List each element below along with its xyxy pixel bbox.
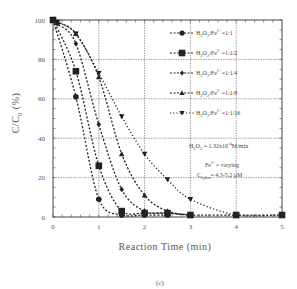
y-tick-label: 80 xyxy=(38,56,46,64)
chart: 012345020406080100 H2O2:Fe2+=1:1H2O2:Fe2… xyxy=(0,0,297,289)
legend-label: H2O2:Fe2+=1:1/8 xyxy=(196,88,237,98)
triangle-up-marker-icon xyxy=(142,193,148,198)
annotations: H2O2 = 1.32x10-4M/minFe2+= varyingC0,phe… xyxy=(189,141,248,181)
x-tick-label: 3 xyxy=(189,223,193,231)
svg-text:C/C0(%): C/C0(%) xyxy=(10,93,23,134)
circle-marker-icon xyxy=(179,30,184,35)
diamond-marker-icon xyxy=(180,70,184,75)
triangle-down-marker-icon xyxy=(165,177,171,182)
legend: H2O2:Fe2+=1:1H2O2:Fe2+=1:1/2H2O2:Fe2+=1:… xyxy=(170,28,240,118)
series-curve xyxy=(53,20,282,215)
annotation-h2o2: H2O2 = 1.32x10-4M/min xyxy=(189,141,248,151)
circle-marker-icon xyxy=(96,196,102,202)
legend-item-4: H2O2:Fe2+=1:1/8 xyxy=(170,88,237,98)
legend-label: H2O2:Fe2+=1:1/2 xyxy=(196,48,237,58)
annotation-fe: Fe2+= varying xyxy=(205,160,239,168)
y-axis-title: C/C0(%) xyxy=(10,93,23,134)
square-marker-icon xyxy=(73,68,80,75)
grid-lines xyxy=(53,20,282,217)
x-tick-label: 4 xyxy=(234,223,238,231)
y-axis-title-unit: (%) xyxy=(10,93,22,110)
legend-label: H2O2:Fe2+=1:1 xyxy=(196,28,233,38)
series-layer xyxy=(50,17,286,219)
triangle-down-marker-icon xyxy=(119,114,125,119)
y-axis-title-sub: 0 xyxy=(17,112,23,116)
plot-frame xyxy=(53,20,282,217)
y-tick-label: 60 xyxy=(38,95,46,103)
legend-item-2: H2O2:Fe2+=1:1/2 xyxy=(170,48,237,58)
legend-item-3: H2O2:Fe2+=1:1/4 xyxy=(170,68,237,78)
triangle-up-marker-icon xyxy=(179,90,184,95)
y-axis-title-main: C/C xyxy=(10,116,21,134)
series-5 xyxy=(50,18,285,218)
x-tick-label: 5 xyxy=(280,223,284,231)
x-tick-label: 0 xyxy=(51,223,55,231)
x-tick-label: 1 xyxy=(97,223,101,231)
square-marker-icon xyxy=(118,208,125,215)
y-tick-label: 20 xyxy=(38,174,46,182)
diamond-marker-icon xyxy=(74,41,78,47)
x-tick-label: 2 xyxy=(143,223,147,231)
diamond-marker-icon xyxy=(97,122,101,128)
legend-item-5: H2O2:Fe2+=1:1/16 xyxy=(170,108,240,118)
legend-label: H2O2:Fe2+=1:1/16 xyxy=(196,108,240,118)
circle-marker-icon xyxy=(73,94,79,100)
annotation-c0: C0,phen= 4.3-5.2 μM xyxy=(197,172,243,181)
triangle-down-marker-icon xyxy=(142,152,148,157)
square-marker-icon xyxy=(179,50,186,57)
y-tick-label: 40 xyxy=(38,135,46,143)
triangle-down-marker-icon xyxy=(188,197,194,202)
legend-item-1: H2O2:Fe2+=1:1 xyxy=(170,28,233,38)
y-tick-label: 0 xyxy=(42,214,46,222)
legend-label: H2O2:Fe2+=1:1/4 xyxy=(196,68,237,78)
axis-ticks: 012345020406080100 xyxy=(35,17,285,232)
figure-caption: (c) xyxy=(156,279,164,287)
triangle-up-marker-icon xyxy=(119,151,125,156)
square-marker-icon xyxy=(96,162,103,169)
x-axis-title: Reaction Time (min) xyxy=(119,241,212,253)
y-tick-label: 100 xyxy=(35,17,46,25)
